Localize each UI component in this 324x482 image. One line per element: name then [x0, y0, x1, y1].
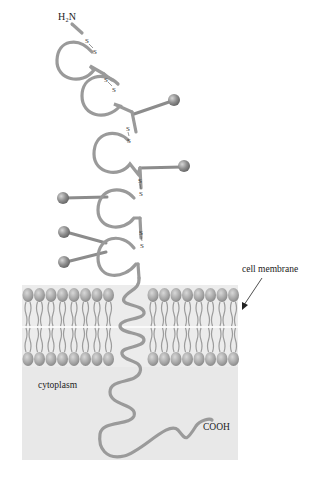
svg-text:S: S: [126, 125, 130, 133]
cytoplasm-label: cytoplasm: [38, 380, 77, 390]
svg-text:S: S: [140, 242, 144, 250]
membrane-pointer-arrow: [242, 278, 262, 310]
svg-text:S: S: [127, 137, 131, 145]
svg-text:S: S: [139, 229, 143, 237]
n-terminus-label: H₂N: [58, 11, 76, 22]
carbohydrate-chains: [64, 101, 182, 262]
svg-text:S: S: [139, 190, 143, 198]
svg-text:S: S: [104, 76, 108, 84]
svg-text:S: S: [112, 86, 116, 94]
sugar-spheres: [57, 94, 190, 268]
c-terminus-label: COOH: [203, 422, 230, 432]
svg-text:S: S: [93, 48, 97, 56]
svg-text:S: S: [85, 37, 89, 45]
protein-membrane-diagram: SS SS SS SS SS: [0, 0, 324, 482]
svg-text:S: S: [138, 177, 142, 185]
cell-membrane-label: cell membrane: [242, 264, 298, 274]
